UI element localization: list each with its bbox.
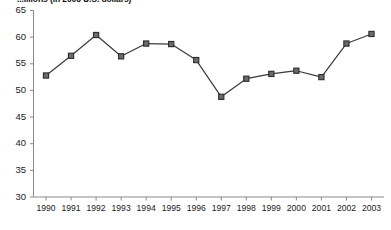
data-point-marker xyxy=(169,41,174,46)
line-chart: ...illions (in 2003 U.S. dollars) 303540… xyxy=(0,0,391,230)
data-point-marker xyxy=(144,41,149,46)
data-point-marker xyxy=(194,57,199,62)
data-point-marker xyxy=(244,76,249,81)
data-point-marker xyxy=(43,73,48,78)
data-point-marker xyxy=(119,54,124,59)
data-point-marker xyxy=(344,41,349,46)
series-line xyxy=(46,34,371,97)
data-point-marker xyxy=(93,32,98,37)
data-point-marker xyxy=(369,31,374,36)
chart-axes xyxy=(30,11,384,201)
data-series xyxy=(43,31,374,99)
data-point-marker xyxy=(294,68,299,73)
data-point-marker xyxy=(68,53,73,58)
plot-area xyxy=(0,0,391,230)
data-point-marker xyxy=(219,94,224,99)
data-point-marker xyxy=(319,75,324,80)
data-point-marker xyxy=(269,71,274,76)
